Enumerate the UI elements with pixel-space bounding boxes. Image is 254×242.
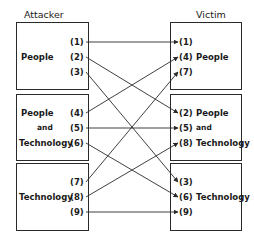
connection-lines [0, 0, 254, 242]
